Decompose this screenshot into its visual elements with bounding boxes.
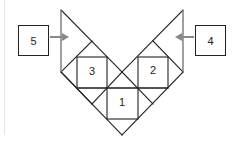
square-1-label: 1 (107, 96, 137, 108)
square-2-label: 2 (138, 64, 168, 76)
arrow-right-head-icon (62, 33, 69, 41)
folding-net-diagram (0, 0, 240, 145)
box-4-label: 4 (207, 35, 213, 47)
box-5-label: 5 (30, 35, 36, 47)
square-3-label: 3 (77, 65, 107, 77)
box-4: 4 (195, 25, 226, 56)
box-5: 5 (18, 25, 49, 56)
arrow-left-head-icon (175, 33, 182, 41)
